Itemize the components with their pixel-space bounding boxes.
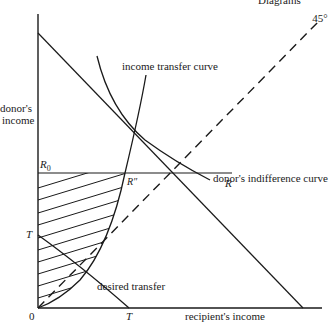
header-fragment: Diagrams	[258, 0, 301, 6]
donor-indifference-curve	[97, 56, 210, 180]
y-axis-label-line2: income	[2, 114, 34, 126]
r-double-prime-label: R″	[126, 176, 138, 187]
income-transfer-curve	[38, 75, 146, 308]
indifference-curve-label: donor's indifference curve	[213, 172, 328, 184]
y-axis-label-line1: donor's	[0, 102, 32, 114]
transfer-diagram: Diagrams 45° income transfer curve donor…	[0, 0, 336, 328]
t-y-label: T	[26, 228, 33, 240]
income-transfer-label: income transfer curve	[122, 60, 218, 72]
x-axis-label: recipient's income	[185, 310, 265, 322]
origin-label: 0	[29, 310, 35, 322]
budget-line	[38, 33, 303, 308]
t-x-label: T	[126, 310, 133, 322]
angle-label: 45°	[312, 12, 327, 24]
desired-transfer-label: desired transfer	[97, 280, 165, 292]
r0-label: R0	[39, 158, 51, 173]
